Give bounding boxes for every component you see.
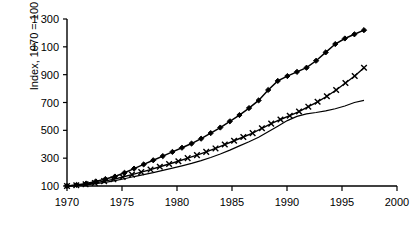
data-point-cross xyxy=(250,130,256,136)
x-tick-label: 1975 xyxy=(110,196,134,208)
data-point-diamond xyxy=(361,28,366,33)
data-point-diamond xyxy=(352,32,357,37)
data-point-cross xyxy=(268,121,274,127)
data-point-cross xyxy=(306,104,312,110)
data-point-cross xyxy=(241,134,247,140)
y-tick-label: 900 xyxy=(41,69,59,81)
data-point-diamond xyxy=(151,158,156,163)
y-tick-label: 700 xyxy=(41,97,59,109)
data-point-cross xyxy=(287,113,293,119)
data-point-cross xyxy=(259,125,265,131)
x-tick-label: 1995 xyxy=(330,196,354,208)
x-tick-label: 1970 xyxy=(55,196,79,208)
data-point-cross xyxy=(333,87,339,93)
x-axis-ticks: 1970197519801985199019952000 xyxy=(55,186,409,208)
x-tick-label: 1990 xyxy=(275,196,299,208)
data-point-cross xyxy=(352,73,358,79)
y-tick-label: 500 xyxy=(41,124,59,136)
y-tick-label: 1 100 xyxy=(31,41,59,53)
data-point-diamond xyxy=(170,149,175,154)
data-point-diamond xyxy=(179,145,184,150)
series-path-none xyxy=(67,100,364,186)
data-point-cross xyxy=(222,142,228,148)
data-point-diamond xyxy=(285,73,290,78)
y-tick-label: 300 xyxy=(41,152,59,164)
y-axis-ticks: 1003005007009001 1001 300 xyxy=(31,13,67,192)
y-tick-label: 1 300 xyxy=(31,13,59,25)
data-point-diamond xyxy=(141,162,146,167)
x-tick-label: 2000 xyxy=(385,196,409,208)
data-point-cross xyxy=(231,138,237,144)
data-point-cross xyxy=(343,80,349,86)
x-tick-label: 1985 xyxy=(220,196,244,208)
data-point-cross xyxy=(296,109,302,115)
data-point-cross xyxy=(361,65,367,71)
data-point-cross xyxy=(278,117,284,123)
series-path-diamond xyxy=(67,30,364,186)
series-path-cross xyxy=(67,68,364,186)
data-point-cross xyxy=(315,99,321,105)
y-tick-label: 100 xyxy=(41,180,59,192)
chart-plot-area: 1003005007009001 1001 300 19701975198019… xyxy=(0,0,417,230)
data-series-group xyxy=(64,28,367,189)
x-tick-label: 1980 xyxy=(165,196,189,208)
data-point-diamond xyxy=(189,141,194,146)
chart-container: Index, 1970 = 100 1003005007009001 1001 … xyxy=(0,0,417,230)
data-point-diamond xyxy=(294,69,299,74)
data-point-diamond xyxy=(160,153,165,158)
data-point-cross xyxy=(324,93,330,99)
data-point-diamond xyxy=(131,166,136,171)
